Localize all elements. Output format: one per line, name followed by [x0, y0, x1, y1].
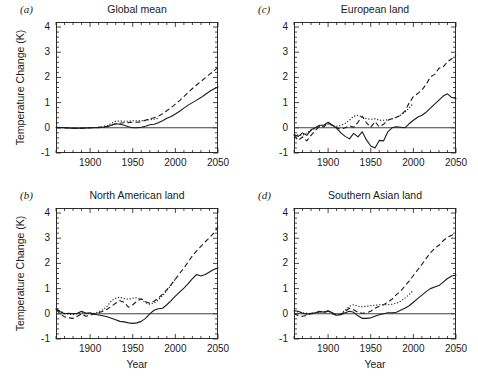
x-tick-label: 2000 [393, 157, 433, 168]
y-tick-label: 3 [22, 232, 50, 243]
x-tick-label: 1950 [351, 343, 391, 354]
panel-tag: (b) [20, 189, 33, 201]
y-tick-label: 0 [22, 122, 50, 133]
y-tick-label: 0 [260, 308, 288, 319]
panel-tag: (c) [258, 3, 270, 15]
figure-root: (a)Global mean43210-11900195020002050Tem… [0, 0, 478, 376]
x-tick-label: 1900 [70, 157, 110, 168]
y-tick-label: -1 [22, 333, 50, 344]
x-tick-label: 2000 [393, 343, 433, 354]
panel-title: North American land [56, 189, 218, 201]
y-axis-label: Temperature Change (K) [14, 208, 26, 339]
y-tick-label: 3 [260, 232, 288, 243]
y-tick-label: 1 [22, 97, 50, 108]
y-tick-label: 2 [22, 71, 50, 82]
panel-title: Global mean [56, 3, 218, 15]
axis-frame [57, 23, 218, 153]
panel-title: European land [294, 3, 456, 15]
x-tick-label: 2050 [436, 343, 476, 354]
y-tick-label: 4 [22, 207, 50, 218]
series-line-dotted [294, 290, 413, 315]
y-tick-label: 1 [260, 283, 288, 294]
series-line-dashed [56, 67, 218, 128]
series-line-dashed [56, 227, 218, 318]
panel-b [56, 208, 218, 339]
x-tick-label: 1950 [113, 157, 153, 168]
y-tick-label: 4 [260, 21, 288, 32]
y-tick-label: -1 [260, 333, 288, 344]
plot-area [56, 22, 218, 153]
plot-area [294, 208, 456, 339]
plot-area [56, 208, 218, 339]
x-tick-label: 1950 [351, 157, 391, 168]
y-tick-label: 1 [260, 97, 288, 108]
x-tick-label: 1900 [70, 343, 110, 354]
y-tick-label: 1 [22, 283, 50, 294]
y-tick-label: 3 [22, 46, 50, 57]
panel-tag: (d) [258, 189, 271, 201]
y-tick-label: 4 [260, 207, 288, 218]
x-tick-label: 2000 [155, 343, 195, 354]
x-tick-label: 2050 [436, 157, 476, 168]
y-tick-label: 3 [260, 46, 288, 57]
panel-title: Southern Asian land [294, 189, 456, 201]
axis-frame [295, 23, 456, 153]
panel-tag: (a) [20, 3, 33, 15]
axis-frame [295, 209, 456, 339]
series-line-dashed [294, 233, 456, 317]
y-tick-label: 0 [22, 308, 50, 319]
panel-c [294, 22, 456, 153]
y-axis-label: Temperature Change (K) [14, 22, 26, 153]
x-tick-label: 1900 [308, 157, 348, 168]
y-tick-label: -1 [260, 147, 288, 158]
series-line-dotted [294, 103, 413, 135]
panel-a [56, 22, 218, 153]
panel-d [294, 208, 456, 339]
x-axis-label: Year [56, 358, 218, 370]
x-tick-label: 2000 [155, 157, 195, 168]
plot-area [294, 22, 456, 153]
x-axis-label: Year [294, 358, 456, 370]
x-tick-label: 2050 [198, 157, 238, 168]
y-tick-label: 2 [22, 257, 50, 268]
x-tick-label: 1950 [113, 343, 153, 354]
y-tick-label: -1 [22, 147, 50, 158]
series-line-solid [294, 94, 456, 148]
axis-frame [57, 209, 218, 339]
y-tick-label: 4 [22, 21, 50, 32]
y-tick-label: 0 [260, 122, 288, 133]
y-tick-label: 2 [260, 71, 288, 82]
y-tick-label: 2 [260, 257, 288, 268]
x-tick-label: 2050 [198, 343, 238, 354]
x-tick-label: 1900 [308, 343, 348, 354]
